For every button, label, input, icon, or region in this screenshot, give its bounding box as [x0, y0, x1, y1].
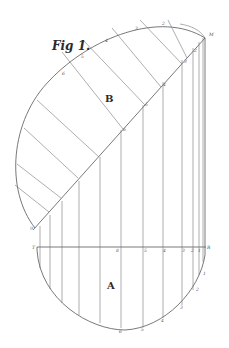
baseline-left-label: T	[32, 245, 36, 250]
arc-label: 3	[180, 305, 183, 310]
diagonal-line	[33, 38, 205, 230]
baseline-label: 1	[198, 248, 201, 253]
diagonal-label: 9	[30, 226, 33, 231]
corner-label: M	[208, 32, 214, 37]
vertical-lines	[40, 38, 203, 328]
upper-arc-label: 6	[62, 71, 65, 76]
diagonal-label: 2	[193, 48, 197, 53]
upper-hatching	[15, 20, 187, 212]
arc-label: 5	[141, 327, 144, 332]
figure-1-diagram: Fig 1. B A T R M 8 5 4 3 2 1 1 2 3 4 5 6…	[0, 0, 229, 348]
baseline-right-label: R	[206, 245, 211, 250]
diagonal-label: 3	[184, 59, 187, 64]
baseline-label: 5	[144, 248, 147, 253]
baseline-label: 2	[190, 248, 194, 253]
figure-title: Fig 1.	[51, 39, 90, 53]
region-b-label: B	[105, 93, 113, 104]
arc-label: 4	[160, 318, 164, 323]
arc-label: 6	[119, 329, 122, 334]
arc-label: 1	[203, 271, 206, 276]
region-a-label: A	[106, 280, 115, 291]
baseline-label: 8	[116, 248, 119, 253]
upper-arc-label: 3	[135, 26, 138, 31]
arc-label: 2	[195, 287, 199, 292]
baseline-label: 4	[162, 248, 166, 253]
upper-arc-label: 5	[81, 54, 84, 59]
diagonal-label: 5	[145, 102, 148, 107]
upper-arc-label: 4	[104, 38, 108, 43]
baseline-label: 3	[182, 248, 185, 253]
upper-curve	[16, 27, 205, 228]
diagonal-label: 6	[123, 127, 126, 132]
upper-arc-label: 2	[161, 21, 165, 26]
diagonal-label: 4	[162, 82, 166, 87]
